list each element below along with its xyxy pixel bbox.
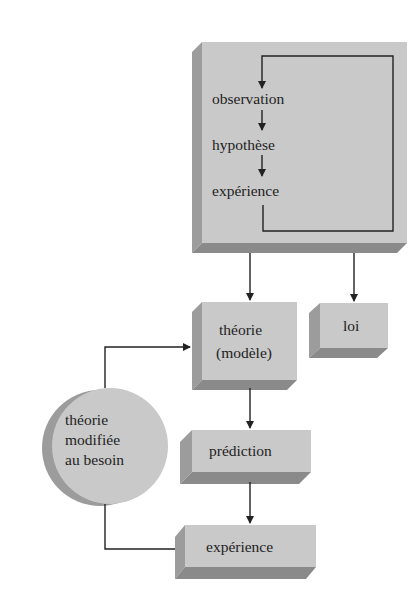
step-hypothese: hypothèse bbox=[212, 136, 275, 153]
loi-label: loi bbox=[343, 317, 360, 334]
theorie-modifiee-label-2: modifiée bbox=[65, 431, 120, 448]
step-observation: observation bbox=[212, 90, 285, 107]
arrow-circle-to-theorie bbox=[105, 347, 190, 388]
prediction-label: prédiction bbox=[209, 442, 272, 459]
experience-label: expérience bbox=[206, 538, 273, 555]
theorie-modifiee-node: théorie modifiée au besoin bbox=[42, 388, 168, 506]
scientific-method-diagram: observation hypothèse expérience théorie… bbox=[0, 0, 415, 607]
theorie-modifiee-label-1: théorie bbox=[65, 411, 108, 428]
experience-node: expérience bbox=[175, 525, 316, 579]
theorie-node: théorie (modèle) bbox=[192, 302, 297, 390]
prediction-node: prédiction bbox=[180, 430, 311, 484]
loi-node: loi bbox=[309, 303, 388, 358]
line-experience-to-circle bbox=[105, 504, 175, 549]
theorie-label-1: théorie bbox=[219, 321, 262, 338]
step-experience: expérience bbox=[212, 182, 279, 199]
theorie-label-2: (modèle) bbox=[216, 344, 272, 362]
theorie-modifiee-label-3: au besoin bbox=[65, 451, 124, 468]
